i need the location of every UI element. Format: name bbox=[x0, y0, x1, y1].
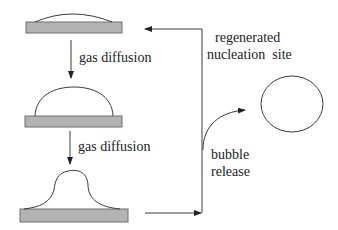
bubble-neck-3 bbox=[24, 170, 120, 209]
bubble-cycle-diagram: gas diffusion gas diffusion regenerated … bbox=[0, 0, 338, 230]
stage-2-growing-bubble bbox=[25, 87, 122, 127]
stage-3-necking-bubble bbox=[20, 170, 128, 222]
release-label-line2: release bbox=[211, 164, 250, 179]
regenerated-label-line2: nucleation site bbox=[207, 47, 292, 62]
bubble-dome-2 bbox=[35, 87, 113, 116]
diffusion-label-1: gas diffusion bbox=[79, 50, 151, 65]
bubble-release-arrow bbox=[203, 110, 245, 150]
substrate-3 bbox=[20, 209, 128, 222]
diffusion-label-2: gas diffusion bbox=[78, 139, 150, 154]
regenerated-label-line1: regenerated bbox=[215, 30, 280, 45]
stage-1-flat-nucleus bbox=[26, 14, 122, 33]
substrate-1 bbox=[26, 22, 122, 33]
gas-cap-1 bbox=[35, 14, 112, 22]
substrate-2 bbox=[25, 116, 122, 127]
released-bubble bbox=[261, 76, 323, 132]
cycle-path bbox=[145, 29, 202, 213]
release-label-line1: bubble bbox=[211, 147, 249, 162]
